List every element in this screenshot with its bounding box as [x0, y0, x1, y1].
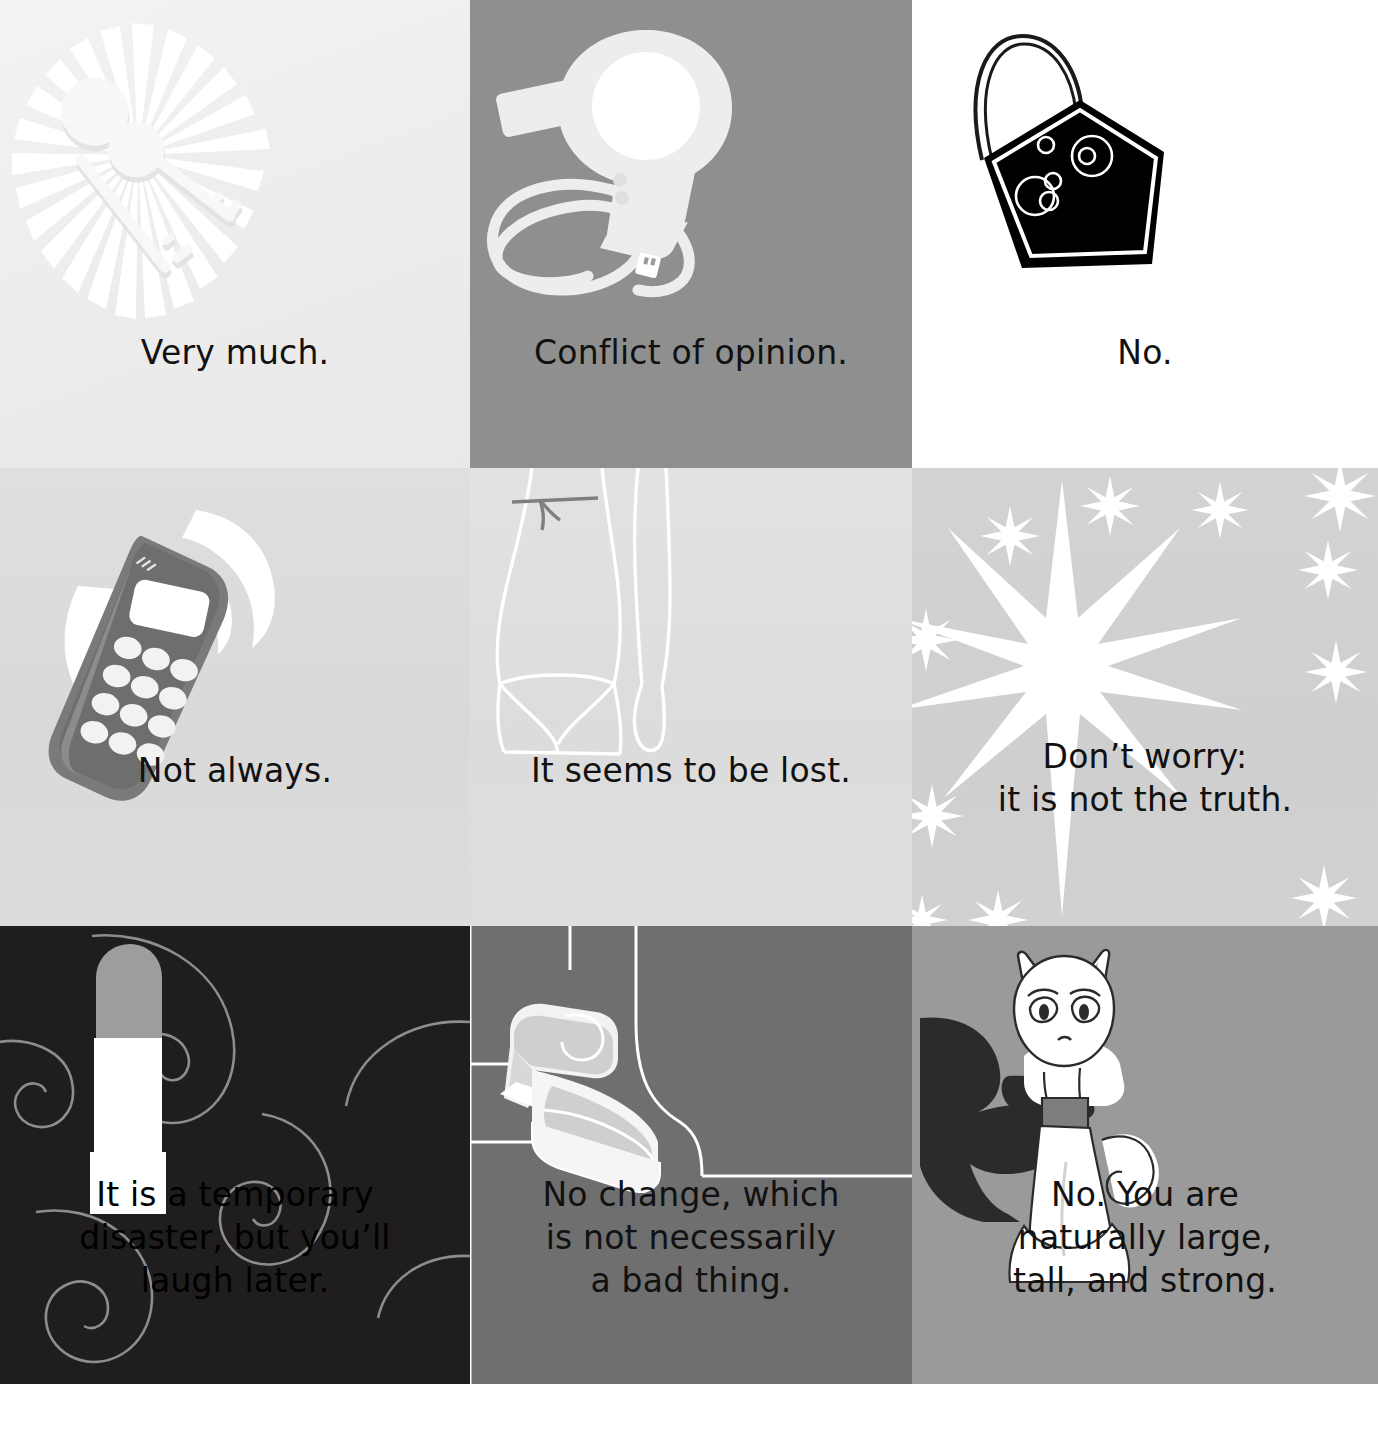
panel-bikini-figure[interactable]: It seems to be lost.	[470, 468, 912, 926]
keys-icon	[0, 0, 470, 468]
handbag-icon	[912, 0, 1378, 468]
mobile-phone-icon	[0, 468, 470, 926]
panel-lipstick[interactable]: It is a temporary disaster, but you’ll l…	[0, 926, 470, 1384]
panel-caption: Not always.	[0, 750, 470, 793]
lipstick-icon	[0, 926, 470, 1384]
panel-keys[interactable]: Very much.	[0, 0, 470, 468]
sparkle-star-icon	[912, 468, 1378, 926]
panel-caption: No.	[912, 332, 1378, 375]
panel-platform-shoes[interactable]: No change, which is not necessarily a ba…	[470, 926, 912, 1384]
panel-caption: Conflict of opinion.	[470, 332, 912, 375]
panel-caption: Don’t worry: it is not the truth.	[912, 736, 1378, 822]
panel-stars[interactable]: Don’t worry: it is not the truth.	[912, 468, 1378, 926]
panel-caption: It seems to be lost.	[470, 750, 912, 793]
panel-caption: Very much.	[0, 332, 470, 375]
panel-caption: No. You are naturally large, tall, and s…	[912, 1174, 1378, 1303]
panel-handbag[interactable]: No.	[912, 0, 1378, 468]
card-grid: Very much.	[0, 0, 1378, 1444]
cat-icon	[912, 926, 1378, 1384]
panel-mobile-phone[interactable]: Not always.	[0, 468, 470, 926]
panel-caption: No change, which is not necessarily a ba…	[470, 1174, 912, 1303]
hair-dryer-icon	[470, 0, 912, 468]
panel-cat[interactable]: No. You are naturally large, tall, and s…	[912, 926, 1378, 1384]
panel-hair-dryer[interactable]: Conflict of opinion.	[470, 0, 912, 468]
panel-caption: It is a temporary disaster, but you’ll l…	[0, 1174, 470, 1303]
platform-shoes-icon	[470, 926, 912, 1384]
bikini-figure-icon	[470, 468, 912, 926]
